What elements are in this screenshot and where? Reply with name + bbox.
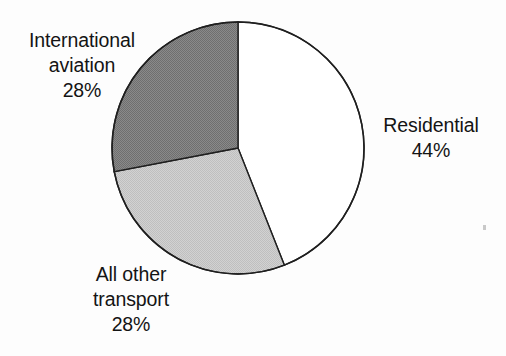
- pie-chart-figure: International aviation 28% Residential 4…: [0, 0, 506, 356]
- pie-label-all-other-transport-line2: transport: [58, 287, 204, 312]
- pie-label-all-other-transport-line1: All other: [58, 262, 204, 287]
- pie-label-residential: Residential 44%: [368, 113, 494, 163]
- pie-label-international-aviation-line2: aviation: [6, 53, 158, 78]
- pie-label-residential-line1: Residential: [368, 113, 494, 138]
- pie-label-residential-value: 44%: [368, 138, 494, 163]
- pie-label-international-aviation-value: 28%: [6, 78, 158, 103]
- scan-artifact-speck: [483, 225, 486, 230]
- pie-label-all-other-transport-value: 28%: [58, 312, 204, 337]
- pie-label-international-aviation: International aviation 28%: [6, 28, 158, 103]
- pie-label-all-other-transport: All other transport 28%: [58, 262, 204, 337]
- pie-label-international-aviation-line1: International: [6, 28, 158, 53]
